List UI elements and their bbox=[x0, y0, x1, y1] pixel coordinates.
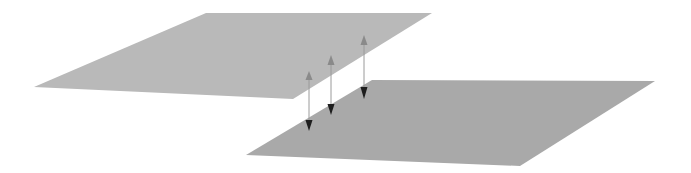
two-plane-diagram bbox=[0, 0, 691, 173]
